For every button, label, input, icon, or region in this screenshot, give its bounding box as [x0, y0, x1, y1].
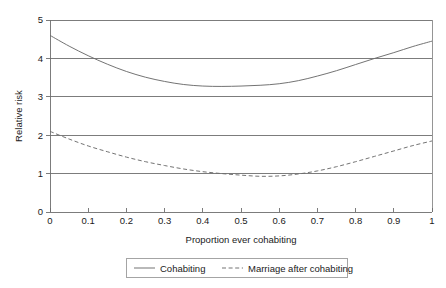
y-axis-ticks-group: 012345	[38, 14, 50, 217]
relative-risk-line-chart: 012345 00.10.20.30.40.50.60.70.80.91 Rel…	[0, 0, 446, 288]
x-tick-label: 0.8	[349, 215, 362, 226]
x-tick-label: 0.5	[234, 215, 247, 226]
chart-figure: 012345 00.10.20.30.40.50.60.70.80.91 Rel…	[0, 0, 446, 288]
x-tick-label: 0.9	[387, 215, 400, 226]
x-tick-label: 0.7	[311, 215, 324, 226]
x-tick-label: 0.3	[158, 215, 171, 226]
legend: Cohabiting Marriage after cohabiting	[127, 259, 354, 278]
legend-label-marriage-after-cohabiting: Marriage after cohabiting	[248, 263, 353, 274]
y-tick-label: 3	[38, 91, 43, 102]
x-tick-label: 0	[47, 215, 52, 226]
x-tick-label: 0.6	[273, 215, 286, 226]
x-tick-label: 0.1	[82, 215, 95, 226]
y-tick-label: 1	[38, 168, 43, 179]
y-axis-title: Relative risk	[13, 90, 24, 142]
x-tick-label: 0.2	[120, 215, 133, 226]
x-tick-label: 0.4	[196, 215, 209, 226]
x-axis-title: Proportion ever cohabiting	[186, 234, 297, 245]
y-tick-label: 2	[38, 130, 43, 141]
y-tick-label: 5	[38, 14, 43, 25]
y-tick-label: 0	[38, 206, 43, 217]
plot-area-background	[50, 20, 432, 212]
y-tick-label: 4	[38, 53, 43, 64]
legend-label-cohabiting: Cohabiting	[160, 263, 205, 274]
x-tick-label: 1	[429, 215, 434, 226]
